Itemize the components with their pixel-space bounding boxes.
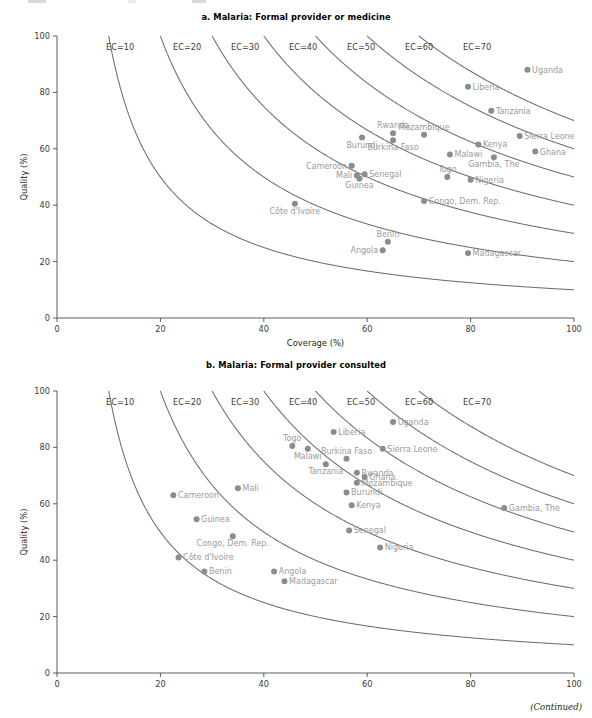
x-tick-label-20: 20 xyxy=(155,324,165,334)
data-point-label: Liberia xyxy=(473,83,500,92)
data-point-label: Benin xyxy=(376,230,399,239)
panel-a-malaria-formal-provider-or-medicine: a. Malaria: Formal provider or medicine … xyxy=(0,0,592,352)
data-point-dot xyxy=(501,505,507,511)
data-point-label: Uganda xyxy=(532,66,563,75)
data-point-label: Tanzania xyxy=(307,467,343,476)
ec-label-30: EC=30 xyxy=(231,42,259,52)
data-point-dot xyxy=(235,485,241,491)
data-point-label: Uganda xyxy=(398,418,429,427)
data-point-dot xyxy=(354,470,360,476)
data-point-dot xyxy=(377,545,383,551)
x-tick-label-60: 60 xyxy=(362,679,372,689)
data-point-dot xyxy=(170,492,176,498)
data-point-label: Kenya xyxy=(356,501,381,510)
figure-page: a. Malaria: Formal provider or medicine … xyxy=(0,0,592,718)
data-point-dot xyxy=(517,133,523,139)
y-tick-label-20: 20 xyxy=(40,612,50,622)
data-point-label: Congo, Dem. Rep. xyxy=(197,539,269,548)
data-point-dot xyxy=(349,502,355,508)
data-point-dot xyxy=(421,132,427,138)
data-point-dot xyxy=(176,554,182,560)
data-point-label: Sierra Leone xyxy=(387,445,437,454)
ec-label-20: EC=20 xyxy=(173,42,201,52)
y-tick-label-0: 0 xyxy=(45,313,50,323)
ec-label-50: EC=50 xyxy=(347,42,375,52)
data-point-label: Gambia, The xyxy=(468,160,519,169)
data-point-label: Côte d'Ivoire xyxy=(183,552,234,562)
ec-label-70: EC=70 xyxy=(463,42,491,52)
data-point-label: Burkina Faso xyxy=(321,447,372,456)
y-tick-label-20: 20 xyxy=(40,257,50,267)
data-point-dot xyxy=(444,174,450,180)
data-point-label: Benin xyxy=(209,567,232,576)
data-point-label: Mali xyxy=(336,171,352,180)
data-point-dot xyxy=(488,108,494,114)
data-point-label: Guinea xyxy=(201,515,229,524)
data-point-label: Tanzania xyxy=(495,107,531,116)
data-point-label: Cameroon xyxy=(306,162,347,171)
y-tick-label-80: 80 xyxy=(40,442,50,452)
x-tick-label-100: 100 xyxy=(566,324,582,334)
x-tick-label-100: 100 xyxy=(566,679,582,689)
x-tick-label-0: 0 xyxy=(54,324,59,334)
data-point-dot xyxy=(362,171,368,177)
x-axis-title: Coverage (%) xyxy=(287,338,344,348)
data-point-dot xyxy=(380,247,386,253)
y-tick-label-40: 40 xyxy=(40,200,50,210)
ec-label-60: EC=60 xyxy=(405,397,433,407)
data-point-label: Gambia, The xyxy=(509,504,560,513)
y-tick-label-60: 60 xyxy=(40,144,50,154)
data-point-label: Nigeria xyxy=(385,543,414,552)
panel-b-plot: EC=10EC=20EC=30EC=40EC=50EC=60EC=70Ugand… xyxy=(0,352,592,692)
data-point-dot xyxy=(344,456,350,462)
data-point-label: Angola xyxy=(350,246,378,255)
data-point-label: Senegal xyxy=(354,526,386,535)
ec-label-60: EC=60 xyxy=(405,42,433,52)
data-point-label: Mali xyxy=(243,484,259,493)
data-point-dot xyxy=(465,250,471,256)
data-point-label: Angola xyxy=(279,567,307,576)
data-point-dot xyxy=(390,419,396,425)
panel-b-malaria-formal-provider-consulted: b. Malaria: Formal provider consulted EC… xyxy=(0,352,592,692)
data-point-dot xyxy=(349,163,355,169)
y-axis-title: Quality (%) xyxy=(19,153,29,200)
x-tick-label-40: 40 xyxy=(259,324,269,334)
data-point-dot xyxy=(354,480,360,486)
x-tick-label-0: 0 xyxy=(54,679,59,689)
data-point-dot xyxy=(346,528,352,534)
data-point-dot xyxy=(201,568,207,574)
ec-label-10: EC=10 xyxy=(106,42,134,52)
data-point-label: Liberia xyxy=(338,428,365,437)
data-point-label: Togo xyxy=(437,165,457,174)
axes: 020406080100020406080100Coverage (%)Qual… xyxy=(19,386,582,692)
ec-label-10: EC=10 xyxy=(106,397,134,407)
data-point-label: Togo xyxy=(282,434,302,443)
data-point-dot xyxy=(289,443,295,449)
ec-curve-50 xyxy=(316,36,575,177)
ec-label-40: EC=40 xyxy=(289,397,317,407)
data-point-label: Kenya xyxy=(483,140,508,149)
data-point-dot xyxy=(532,149,538,155)
y-tick-label-100: 100 xyxy=(34,31,50,41)
x-tick-label-20: 20 xyxy=(155,679,165,689)
data-point-label: Congo, Dem. Rep. xyxy=(429,197,501,206)
x-tick-label-40: 40 xyxy=(259,679,269,689)
ec-label-50: EC=50 xyxy=(347,397,375,407)
data-point-dot xyxy=(271,568,277,574)
data-point-dot xyxy=(385,239,391,245)
data-point-dot xyxy=(344,490,350,496)
data-point-label: Mozambique xyxy=(399,123,450,132)
data-point-label: Madagascar xyxy=(473,249,522,258)
data-point-dot xyxy=(194,516,200,522)
x-tick-label-80: 80 xyxy=(465,679,475,689)
data-point-dot xyxy=(331,429,337,435)
data-point-label: Mozambique xyxy=(361,479,412,488)
data-points: UgandaLiberiaTanzaniaSierra LeoneRwandaM… xyxy=(270,66,575,258)
x-tick-label-80: 80 xyxy=(465,324,475,334)
data-point-label: Côte d'Ivoire xyxy=(270,206,321,216)
data-point-label: Ghana xyxy=(540,148,566,157)
ec-label-40: EC=40 xyxy=(289,42,317,52)
ec-label-30: EC=30 xyxy=(231,397,259,407)
data-point-dot xyxy=(475,142,481,148)
data-point-label: Nigeria xyxy=(475,176,504,185)
